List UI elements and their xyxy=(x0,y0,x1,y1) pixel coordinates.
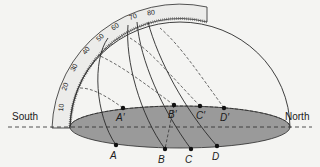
tick-label-10: 10 xyxy=(57,103,65,111)
north-label: North xyxy=(285,111,309,122)
diagram-graphic xyxy=(0,0,320,167)
point-b xyxy=(163,147,167,151)
label-a-prime: A′ xyxy=(116,112,125,123)
point-c xyxy=(189,147,193,151)
hemisphere-diagram: 10 20 30 40 50 60 70 80 South North A B … xyxy=(0,0,320,167)
point-a xyxy=(114,143,118,147)
label-a: A xyxy=(110,150,117,161)
point-a-prime xyxy=(121,106,125,110)
label-c-prime: C′ xyxy=(196,110,205,121)
label-d: D xyxy=(212,151,219,162)
point-c-prime xyxy=(198,104,202,108)
point-d-prime xyxy=(222,106,226,110)
label-c: C xyxy=(185,154,192,165)
point-b-prime xyxy=(172,103,176,107)
point-d xyxy=(215,144,219,148)
label-b: B xyxy=(158,154,165,165)
south-label: South xyxy=(12,111,38,122)
label-b-prime: B′ xyxy=(168,109,177,120)
label-d-prime: D′ xyxy=(220,112,229,123)
tick-label-80: 80 xyxy=(147,8,156,16)
